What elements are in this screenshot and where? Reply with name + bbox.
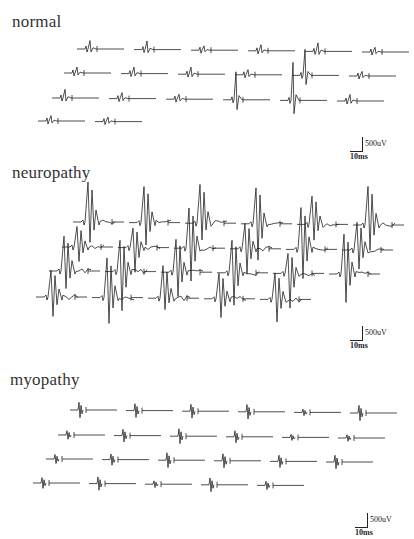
muap-trace: [58, 431, 105, 439]
muap-trace: [350, 405, 397, 420]
muap-trace: [126, 404, 173, 418]
muap-trace: [338, 435, 385, 442]
muap-trace: [145, 481, 192, 488]
myopathy-traces: [0, 0, 414, 539]
muap-trace: [270, 455, 317, 467]
muap-trace: [257, 481, 304, 489]
scale-bar-vertical: [367, 513, 368, 527]
muap-trace: [226, 431, 273, 443]
muap-trace: [114, 429, 161, 442]
scale-amplitude: 500uV: [370, 515, 392, 524]
muap-trace: [294, 409, 341, 415]
muap-trace: [326, 455, 373, 468]
muap-trace: [33, 478, 80, 489]
muap-trace: [70, 402, 117, 417]
muap-trace: [282, 434, 329, 440]
muap-trace: [170, 429, 217, 444]
muap-trace: [46, 454, 93, 463]
muap-trace: [158, 453, 205, 468]
muap-trace: [182, 404, 229, 418]
scale-bar-myopathy: 500uV 10ms: [355, 513, 414, 539]
muap-trace: [201, 478, 248, 492]
muap-trace: [102, 454, 149, 465]
muap-trace: [214, 454, 261, 468]
scale-time: 10ms: [355, 528, 373, 537]
muap-trace: [89, 477, 136, 490]
muap-trace: [238, 405, 285, 419]
